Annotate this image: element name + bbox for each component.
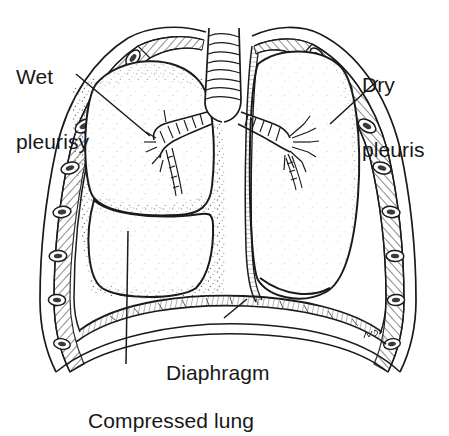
label-compressed-lung: Compressed lung [88,366,254,436]
label-wet-pleurisy-line1: Wet [16,66,89,88]
label-wet-pleurisy-line2: pleurisy [16,131,89,153]
label-compressed-lung-line1: Compressed lung [88,410,254,432]
label-dry-pleurisy-line1: Dry [362,74,425,96]
label-dry-pleurisy: Dry pleuris [362,30,425,205]
label-dry-pleurisy-line2: pleuris [362,139,425,161]
trachea [205,28,241,122]
label-wet-pleurisy: Wet pleurisy [16,22,89,197]
